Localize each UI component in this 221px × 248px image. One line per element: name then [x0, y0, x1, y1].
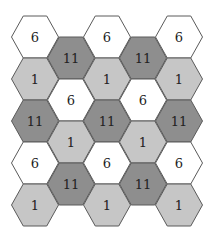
hex-label: 11	[135, 177, 152, 192]
hex-label: 1	[67, 135, 75, 150]
hex-label: 6	[103, 156, 111, 171]
hex-label: 1	[139, 135, 147, 150]
hex-label: 1	[175, 72, 183, 87]
hex-label: 6	[67, 93, 75, 108]
hex-label: 1	[175, 198, 183, 213]
hex-label: 6	[139, 93, 147, 108]
hex-label: 11	[27, 114, 44, 129]
hex-label: 11	[135, 51, 152, 66]
hex-label: 1	[103, 72, 111, 87]
hex-label: 11	[63, 51, 80, 66]
hex-label: 6	[175, 156, 183, 171]
hex-label: 1	[31, 198, 39, 213]
hex-label: 6	[31, 156, 39, 171]
hex-label: 6	[175, 30, 183, 45]
hex-label: 6	[103, 30, 111, 45]
hex-label: 1	[31, 72, 39, 87]
hex-label: 11	[63, 177, 80, 192]
hex-label: 11	[99, 114, 116, 129]
hex-grid: 611161116111611161116111611161	[0, 0, 221, 248]
hex-label: 1	[103, 198, 111, 213]
hex-label: 6	[31, 30, 39, 45]
hex-label: 11	[171, 114, 188, 129]
